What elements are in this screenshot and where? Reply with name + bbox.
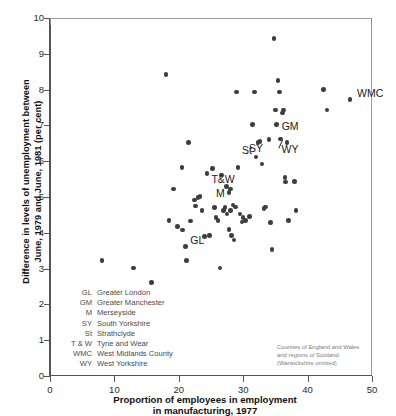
legend-name: West Midlands County (97, 349, 173, 359)
annotation-wy: WY (282, 144, 299, 155)
data-point (283, 175, 288, 180)
y-tick-label-1: 1 (20, 335, 44, 345)
annotation-wmc: WMC (357, 88, 383, 99)
data-point (188, 219, 193, 224)
annotation-tw: T&W (211, 174, 234, 185)
chart-note: Counties of England and Walesand regions… (277, 343, 359, 368)
frame-corner-tick-right (371, 18, 372, 25)
legend-row: WMCWest Midlands County (58, 349, 173, 359)
annotation-gm: GM (282, 121, 299, 132)
legend-abbr: M (58, 308, 97, 318)
legend-row: T & WTyne and Wear (58, 339, 173, 349)
data-point (233, 205, 238, 210)
plot-frame-right (371, 18, 372, 376)
legend-name: Merseyside (97, 308, 173, 318)
legend-abbr: GM (58, 298, 97, 308)
legend-abbr: St (58, 329, 97, 339)
data-point (247, 214, 252, 219)
legend-name: West Yorkshire (97, 359, 173, 369)
plot-frame-top (50, 18, 372, 19)
data-point (207, 233, 212, 238)
abbreviation-legend: GLGreater LondonGMGreater ManchesterMMer… (58, 288, 173, 370)
data-point (183, 244, 188, 249)
y-tick-1 (44, 340, 50, 341)
scatter-chart-figure: 012345678910 01020304050 GLGMMSYStT&WWMC… (0, 0, 396, 416)
data-point (184, 258, 189, 263)
y-tick-label-10: 10 (20, 13, 44, 23)
data-point (321, 87, 326, 92)
legend-row: GMGreater Manchester (58, 298, 173, 308)
x-axis-title: Proportion of employees in employment in… (40, 394, 370, 416)
legend-row: GLGreater London (58, 288, 173, 298)
x-axis-line (50, 375, 372, 376)
data-point (292, 179, 297, 184)
y-axis-title-line2: June, 1979 and June, 1981 (per cent) (32, 42, 44, 322)
x-tick-50 (372, 376, 373, 382)
y-axis-title-line1: Difference in levels of unemployment bet… (21, 42, 33, 322)
x-axis-title-line2: in manufacturing, 1977 (40, 405, 370, 416)
data-point (180, 228, 185, 233)
legend-table: GLGreater LondonGMGreater ManchesterMMer… (58, 288, 173, 370)
legend-row: StStrathclyde (58, 329, 173, 339)
data-point (268, 220, 273, 225)
chart-note-line: Counties of England and Wales (277, 343, 359, 351)
frame-corner-tick-left (50, 18, 51, 25)
y-tick-6 (44, 161, 50, 162)
data-point (273, 108, 278, 113)
data-point (250, 122, 255, 127)
y-tick-9 (44, 54, 50, 55)
data-point (276, 78, 281, 83)
data-point (228, 187, 233, 192)
x-tick-10 (114, 376, 115, 382)
legend-name: South Yorkshire (97, 319, 173, 329)
x-axis-title-line1: Proportion of employees in employment (40, 394, 370, 405)
data-point (228, 208, 233, 213)
legend-row: WYWest Yorkshire (58, 359, 173, 369)
legend-abbr: SY (58, 319, 97, 329)
data-point (200, 208, 205, 213)
y-tick-label-0: 0 (20, 371, 44, 381)
legend-abbr: WMC (58, 349, 97, 359)
legend-row: SYSouth Yorkshire (58, 319, 173, 329)
y-tick-10 (44, 18, 50, 19)
y-axis-title: Difference in levels of unemployment bet… (21, 42, 44, 322)
legend-name: Tyne and Wear (97, 339, 173, 349)
annotation-m: M (216, 188, 225, 199)
data-point (193, 204, 198, 209)
data-point (216, 218, 221, 223)
x-tick-30 (243, 376, 244, 382)
data-point (212, 205, 217, 210)
x-tick-20 (179, 376, 180, 382)
data-point (294, 208, 299, 213)
y-tick-2 (44, 304, 50, 305)
y-tick-7 (44, 125, 50, 126)
data-point (274, 122, 279, 127)
x-tick-0 (50, 376, 51, 382)
data-point (286, 218, 291, 223)
legend-name: Greater London (97, 288, 173, 298)
legend-name: Strathclyde (97, 329, 173, 339)
data-point (186, 140, 191, 145)
legend-abbr: GL (58, 288, 97, 298)
legend-abbr: WY (58, 359, 97, 369)
data-point (277, 90, 282, 95)
data-point (149, 280, 154, 285)
x-tick-40 (308, 376, 309, 382)
chart-note-line: and regions of Scotland (277, 351, 359, 359)
legend-abbr: T & W (58, 339, 97, 349)
annotation-gl: GL (190, 235, 204, 246)
chart-note-line: (Warwickshire omitted) (277, 359, 359, 367)
data-point (131, 266, 136, 271)
y-tick-3 (44, 269, 50, 270)
data-point (227, 227, 232, 232)
y-tick-8 (44, 90, 50, 91)
data-point (210, 166, 215, 171)
data-point (175, 224, 180, 229)
y-tick-4 (44, 233, 50, 234)
data-point (164, 72, 169, 77)
y-tick-5 (44, 197, 50, 198)
legend-name: Greater Manchester (97, 298, 173, 308)
legend-row: MMerseyside (58, 308, 173, 318)
data-point (167, 218, 172, 223)
annotation-st: St (242, 145, 252, 156)
